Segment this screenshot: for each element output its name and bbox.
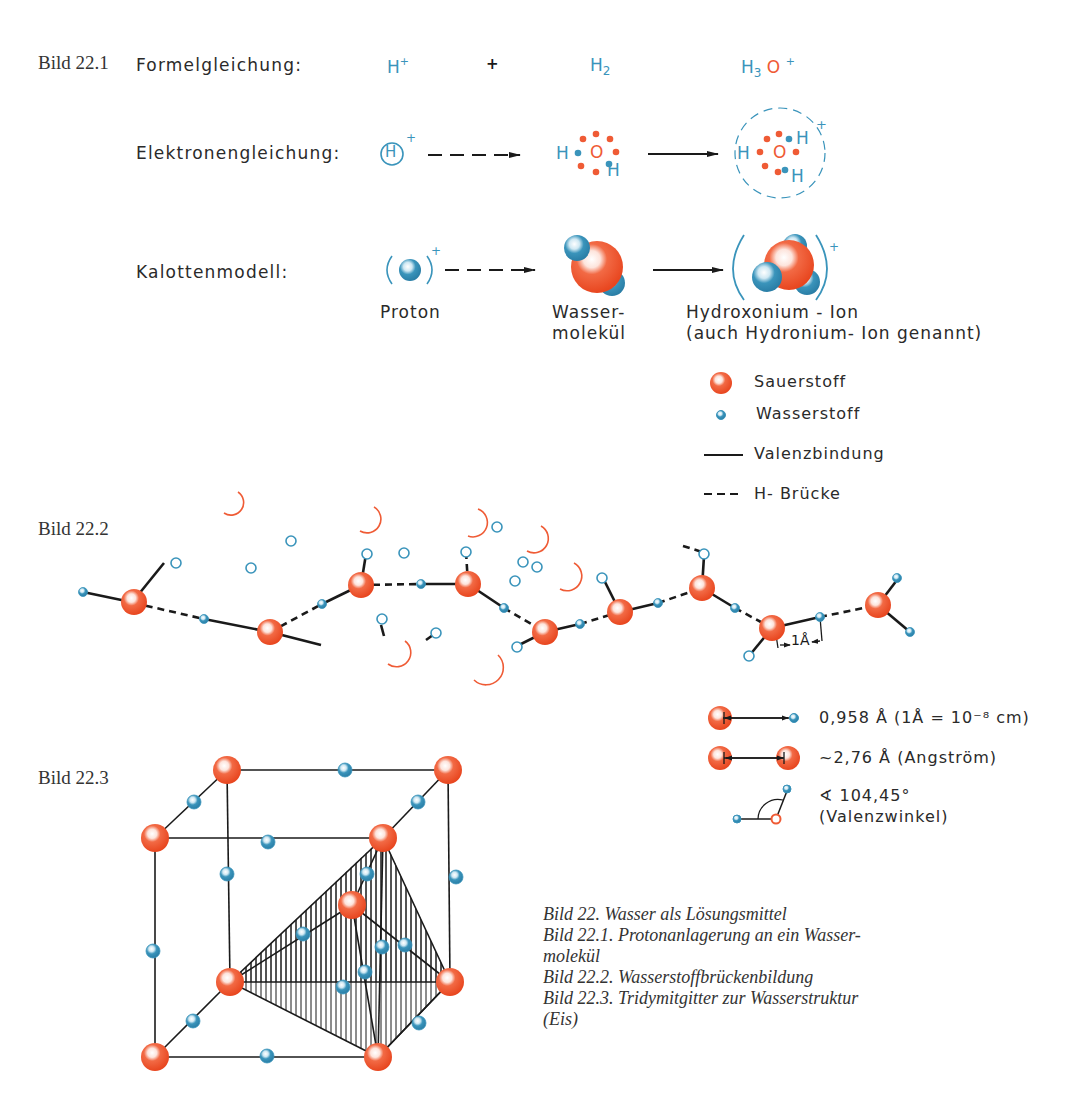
hydrogen-atom: [338, 763, 352, 777]
oxygen-atom: [338, 891, 366, 919]
hydrogen-atom: [398, 938, 412, 952]
caption-line: Bild 22.3. Tridymitgitter zur Wasserstru…: [543, 988, 861, 1009]
hydrogen-atom: [187, 795, 201, 809]
caption-line: Bild 22.2. Wasserstoffbrückenbildung: [543, 967, 861, 988]
tridymite-lattice: [0, 0, 1080, 1104]
oxygen-atom: [364, 1043, 392, 1071]
hydrogen-atom: [411, 795, 425, 809]
figure-captions: Bild 22. Wasser als Lösungsmittel Bild 2…: [543, 904, 861, 1030]
hydrogen-atom: [336, 980, 350, 994]
hydrogen-atom: [412, 1016, 426, 1030]
caption-line: Bild 22. Wasser als Lösungsmittel: [543, 904, 861, 925]
caption-line: Bild 22.1. Protonanlagerung an ein Wasse…: [543, 925, 861, 946]
oxygen-atom: [213, 756, 241, 784]
oxygen-atom: [369, 824, 397, 852]
hydrogen-atom: [358, 965, 372, 979]
hydrogen-atom: [360, 867, 374, 881]
hydrogen-atom: [186, 1014, 200, 1028]
oxygen-atom: [141, 824, 169, 852]
hydrogen-atom: [296, 927, 310, 941]
hydrogen-atom: [449, 870, 463, 884]
caption-line: molekül: [543, 946, 861, 967]
oxygen-atom: [216, 968, 244, 996]
hydrogen-atom: [146, 944, 160, 958]
oxygen-atom: [141, 1043, 169, 1071]
caption-line: (Eis): [543, 1009, 861, 1030]
hydrogen-atom: [260, 1049, 274, 1063]
hydrogen-atom: [375, 940, 389, 954]
oxygen-atom: [436, 968, 464, 996]
tetrahedron-face-left: [230, 837, 383, 1057]
oxygen-atom: [434, 756, 462, 784]
hydrogen-atom: [220, 867, 234, 881]
hydrogen-atom: [261, 835, 275, 849]
